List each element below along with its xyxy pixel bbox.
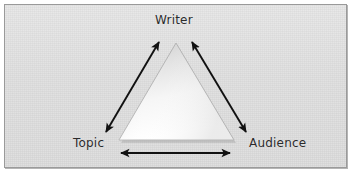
figure-root: Writer Topic Audience <box>0 0 353 175</box>
diagram-panel: Writer Topic Audience <box>4 4 347 168</box>
triangle-shading-overlay <box>119 43 234 140</box>
node-label-writer: Writer <box>155 13 193 27</box>
node-label-topic: Topic <box>73 136 104 150</box>
node-label-audience: Audience <box>249 136 306 150</box>
